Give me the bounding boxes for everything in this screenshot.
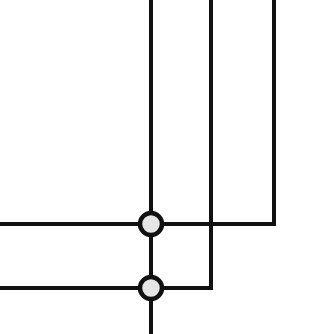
wire-middle-to-lower <box>0 0 211 288</box>
wires-group <box>0 0 274 334</box>
wire-right-to-upper <box>0 0 274 224</box>
wiring-diagram <box>0 0 311 334</box>
junction-lower-node <box>140 277 162 299</box>
junction-upper-node <box>140 213 162 235</box>
